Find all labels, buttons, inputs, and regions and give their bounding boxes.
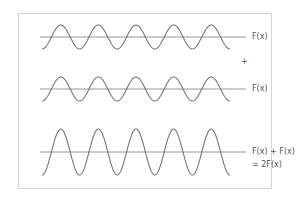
sum-label-line1: F(x) + F(x)	[252, 147, 295, 156]
waves-plot	[0, 0, 300, 201]
plus-operator: +	[241, 57, 248, 66]
wave-1-label: F(x)	[252, 32, 268, 41]
wave-2-label: F(x)	[252, 84, 268, 93]
sum-label-line2: = 2F(x)	[252, 160, 282, 169]
